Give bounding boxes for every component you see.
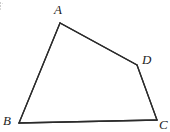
vertex-label-b: B [3,114,11,127]
scan-artifact-mark [0,2,3,11]
geometry-figure: A B C D [0,0,170,132]
vertex-label-d: D [142,53,151,66]
vertex-label-a: A [54,3,62,16]
vertex-label-c: C [159,118,168,131]
